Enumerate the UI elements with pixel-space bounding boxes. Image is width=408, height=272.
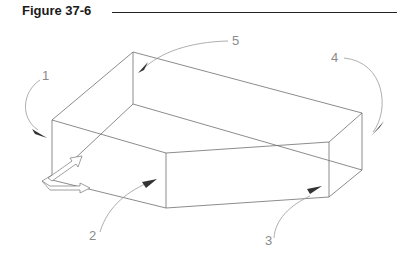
callout-label-1: 1 (42, 68, 49, 83)
leader-1 (25, 80, 40, 130)
callout-label-2: 2 (89, 228, 96, 243)
arrowhead-2 (142, 179, 157, 188)
callout-label-4: 4 (331, 50, 338, 65)
callout-label-5: 5 (232, 33, 239, 48)
leader-3 (274, 196, 310, 238)
ucs-icon (42, 156, 90, 193)
wireframe-solid (52, 52, 362, 208)
callout-label-3: 3 (265, 233, 272, 248)
arrowhead-5 (138, 62, 148, 73)
leader-2 (100, 182, 150, 232)
leader-4 (344, 58, 382, 132)
arrowheads (32, 62, 384, 194)
arrowhead-1 (32, 129, 47, 138)
arrowhead-3 (307, 186, 322, 194)
arrowhead-4 (371, 121, 384, 136)
isometric-solid-diagram (0, 0, 408, 272)
